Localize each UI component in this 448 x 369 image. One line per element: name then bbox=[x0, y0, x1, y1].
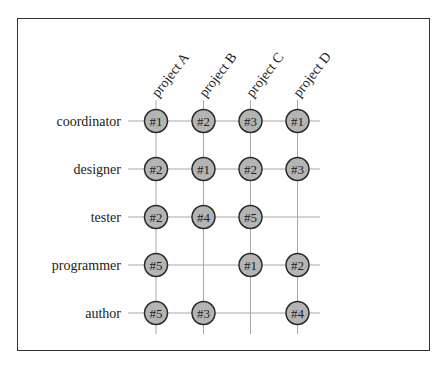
row-label-author: author bbox=[85, 306, 121, 321]
node-rank-label: #2 bbox=[197, 114, 210, 129]
assignment-node: #5 bbox=[145, 254, 168, 277]
node-rank-label: #3 bbox=[244, 114, 257, 129]
row-label-designer: designer bbox=[74, 162, 122, 177]
assignment-node: #5 bbox=[145, 302, 168, 325]
assignment-node: #4 bbox=[286, 302, 309, 325]
assignment-node: #1 bbox=[192, 158, 215, 181]
column-label-project-d: project D bbox=[290, 49, 334, 100]
assignment-node: #1 bbox=[286, 110, 309, 133]
node-rank-label: #1 bbox=[150, 114, 163, 129]
assignment-node: #2 bbox=[239, 158, 262, 181]
row-label-coordinator: coordinator bbox=[56, 114, 121, 129]
node-rank-label: #4 bbox=[291, 306, 305, 321]
assignment-node: #2 bbox=[145, 158, 168, 181]
column-label-project-a: project A bbox=[149, 49, 193, 100]
node-rank-label: #1 bbox=[244, 258, 257, 273]
column-label-project-c: project C bbox=[243, 50, 287, 100]
assignment-node: #2 bbox=[286, 254, 309, 277]
node-rank-label: #1 bbox=[197, 162, 210, 177]
node-rank-label: #2 bbox=[150, 162, 163, 177]
node-rank-label: #5 bbox=[150, 306, 163, 321]
row-label-programmer: programmer bbox=[52, 258, 122, 273]
column-label-project-b: project B bbox=[196, 50, 240, 100]
assignment-node: #3 bbox=[192, 302, 215, 325]
node-rank-label: #1 bbox=[291, 114, 304, 129]
row-label-tester: tester bbox=[91, 210, 122, 225]
node-rank-label: #5 bbox=[150, 258, 163, 273]
node-rank-label: #2 bbox=[244, 162, 257, 177]
assignment-node: #1 bbox=[239, 254, 262, 277]
node-rank-label: #3 bbox=[197, 306, 210, 321]
node-rank-label: #2 bbox=[291, 258, 304, 273]
node-rank-label: #5 bbox=[244, 210, 257, 225]
assignment-node: #2 bbox=[192, 110, 215, 133]
assignment-node: #3 bbox=[286, 158, 309, 181]
assignment-node: #3 bbox=[239, 110, 262, 133]
assignment-node: #4 bbox=[192, 206, 215, 229]
node-rank-label: #3 bbox=[291, 162, 304, 177]
assignment-matrix-diagram: coordinatordesignertesterprogrammerautho… bbox=[0, 0, 448, 369]
assignment-node: #2 bbox=[145, 206, 168, 229]
assignment-node: #1 bbox=[145, 110, 168, 133]
assignment-node: #5 bbox=[239, 206, 262, 229]
node-rank-label: #4 bbox=[197, 210, 211, 225]
node-rank-label: #2 bbox=[150, 210, 163, 225]
